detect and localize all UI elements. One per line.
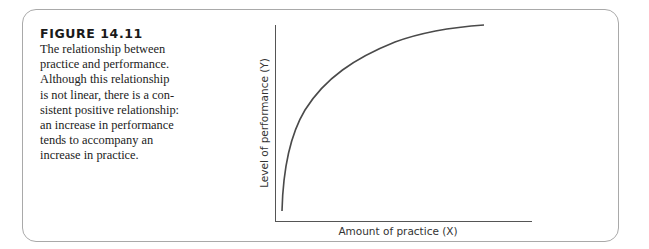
line-chart: Level of performance (Y) Amount of pract… — [0, 0, 649, 249]
x-axis-label: Amount of practice (X) — [338, 225, 457, 237]
data-curve — [282, 25, 484, 211]
y-axis-label: Level of performance (Y) — [258, 58, 270, 188]
